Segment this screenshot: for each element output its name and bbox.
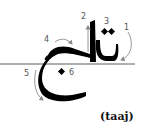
taa-dot-left [101,28,108,35]
letter-alif [90,20,96,62]
stroke-label-5: 5 [24,69,29,78]
stroke-label-2: 2 [81,12,86,21]
stroke-label-6: 6 [69,68,74,77]
letter-taa [96,40,119,61]
letter-jeem [38,47,90,102]
transliteration-label: (taaj) [100,110,134,123]
stroke-label-3: 3 [104,17,109,26]
stroke-arrow-4 [55,39,72,44]
stroke-arrow-1 [121,32,131,60]
taa-dot-right [108,28,115,35]
jeem-dot [58,68,65,75]
stroke-label-1: 1 [124,23,129,32]
stroke-label-4: 4 [44,35,49,44]
